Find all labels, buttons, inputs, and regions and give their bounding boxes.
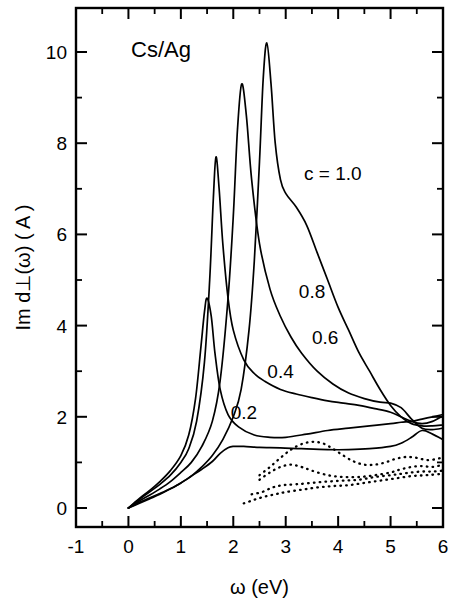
curve-dotted-c [252, 471, 443, 495]
curve-0.6 [128, 157, 443, 508]
curve-label: 0.8 [299, 281, 325, 302]
y-tick-label: 6 [56, 224, 67, 245]
x-tick-label: 3 [280, 536, 291, 557]
y-tick-label: 4 [56, 316, 67, 337]
system-label: Cs/Ag [131, 37, 191, 62]
plot-frame [76, 8, 443, 527]
curve-label: 0.6 [312, 327, 338, 348]
curve-dotted-a [260, 442, 444, 475]
curve-label: c = 1.0 [304, 163, 362, 184]
curve-dotted-d [244, 474, 443, 504]
curves-group [128, 43, 443, 508]
x-tick-label: 6 [438, 536, 449, 557]
curve-label: 0.4 [267, 361, 294, 382]
curve-label: 0.2 [231, 402, 257, 423]
y-tick-label: 10 [46, 42, 67, 63]
curve-c-1.0 [128, 43, 443, 508]
y-tick-label: 2 [56, 407, 67, 428]
y-tick-label: 8 [56, 133, 67, 154]
x-tick-label: 1 [176, 536, 187, 557]
figure-container: -101234560246810 Cs/Agc = 1.00.80.60.40.… [0, 0, 454, 608]
y-axis-title: Im d⊥(ω) ( A ) [12, 205, 34, 331]
x-tick-label: 2 [228, 536, 239, 557]
y-tick-label: 0 [56, 498, 67, 519]
x-tick-label: 5 [385, 536, 396, 557]
x-axis-title: ω (eV) [230, 576, 289, 598]
curve-dotted-b [260, 465, 444, 480]
plot-svg: -101234560246810 Cs/Agc = 1.00.80.60.40.… [0, 0, 454, 608]
x-tick-label: 0 [123, 536, 134, 557]
x-tick-label: -1 [68, 536, 85, 557]
x-tick-label: 4 [333, 536, 344, 557]
axes-group: -101234560246810 [46, 8, 448, 557]
